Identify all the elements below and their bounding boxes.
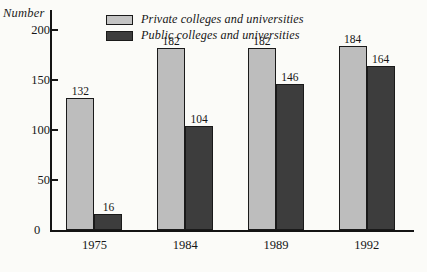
bar-value-label: 146 <box>281 71 298 83</box>
y-axis-tick-label: 150 <box>6 73 50 88</box>
legend-label: Public colleges and universities <box>141 28 300 43</box>
x-axis-label-1992: 1992 <box>354 238 379 253</box>
legend-item: Private colleges and universities <box>106 13 304 26</box>
bar-value-label: 132 <box>72 85 89 97</box>
bar-public-1989: 146 <box>276 84 304 230</box>
bar-value-label: 164 <box>372 53 389 65</box>
y-axis-title: Number <box>3 6 44 21</box>
bar-chart: Number 50100150200 0 1321618210418214618… <box>0 0 427 272</box>
bar-public-1984: 104 <box>185 126 213 230</box>
bar-value-label: 104 <box>191 113 208 125</box>
bar-value-label: 16 <box>103 201 115 213</box>
y-axis-zero-label: 0 <box>34 223 40 238</box>
x-axis-line <box>50 230 414 232</box>
bar-private-1975: 132 <box>66 98 94 230</box>
y-axis-tick-label: 50 <box>6 173 50 188</box>
x-axis-label-1984: 1984 <box>173 238 198 253</box>
bar-group: 184164 <box>339 10 395 230</box>
x-axis-label-1989: 1989 <box>263 238 288 253</box>
legend-label: Private colleges and universities <box>141 12 304 27</box>
bar-private-1992: 184 <box>339 46 367 230</box>
x-axis-label-1975: 1975 <box>82 238 107 253</box>
y-axis-tick-label: 100 <box>6 123 50 138</box>
legend-swatch-private <box>106 15 133 25</box>
bar-public-1975: 16 <box>94 214 122 230</box>
y-axis-tick-label: 200 <box>6 23 50 38</box>
bar-private-1989: 182 <box>248 48 276 230</box>
legend-swatch-public <box>106 31 133 41</box>
chart-legend: Private colleges and universitiesPublic … <box>106 13 304 45</box>
bar-public-1992: 164 <box>367 66 395 230</box>
bar-private-1984: 182 <box>157 48 185 230</box>
legend-item: Public colleges and universities <box>106 29 304 42</box>
bar-value-label: 184 <box>344 33 361 45</box>
